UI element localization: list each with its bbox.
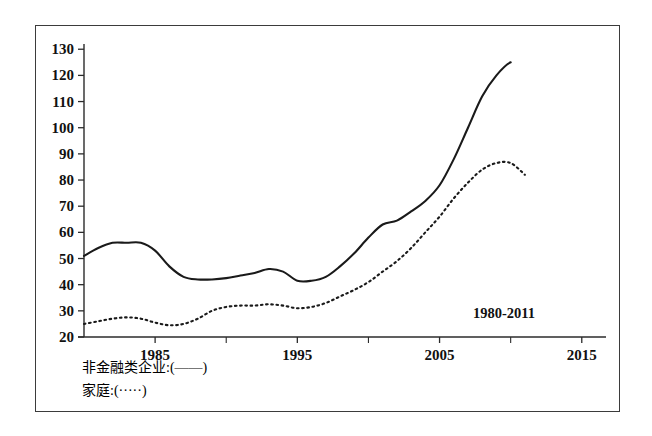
chart-frame: 2030405060708090100110120130 19851995200… [35, 25, 620, 412]
y-tick-label: 100 [52, 120, 75, 136]
x-tick-label: 2005 [425, 347, 455, 363]
y-axis-tick-labels: 2030405060708090100110120130 [52, 41, 75, 345]
axis-lines [78, 44, 606, 337]
legend-item-households: 家庭:(·····) [82, 379, 207, 399]
y-tick-label: 80 [59, 172, 74, 188]
y-tick-label: 130 [52, 41, 75, 57]
y-tick-label: 20 [59, 329, 74, 345]
series-line-nonfinancial-corporations [84, 62, 511, 281]
x-tick-label: 2015 [567, 347, 597, 363]
y-tick-label: 50 [59, 251, 74, 267]
legend-marker-dotted-icon: ····· [119, 383, 142, 398]
y-tick-label: 40 [59, 277, 74, 293]
y-tick-label: 120 [52, 67, 75, 83]
y-tick-label: 110 [52, 94, 74, 110]
legend-paren-close-1: ) [142, 383, 147, 398]
legend-label-households: 家庭 [82, 383, 110, 398]
y-tick-label: 90 [59, 146, 74, 162]
y-tick-label: 60 [59, 224, 74, 240]
x-axis-tick-labels: 1985199520052015 [140, 347, 597, 363]
legend-marker-solid-icon: —— [175, 360, 203, 375]
legend-item-nonfinancial-corporations: 非金融类企业:(——) [82, 356, 207, 376]
period-annotation: 1980-2011 [473, 305, 535, 321]
line-chart-svg: 2030405060708090100110120130 19851995200… [36, 26, 621, 413]
plot-area: 2030405060708090100110120130 19851995200… [36, 26, 621, 413]
y-tick-label: 70 [59, 198, 74, 214]
chart-legend: 非金融类企业:(——) 家庭:(·····) [82, 356, 207, 399]
legend-paren-close-0: ) [203, 360, 208, 375]
y-axis-ticks [78, 49, 84, 337]
x-tick-label: 1995 [282, 347, 312, 363]
series-line-households [84, 162, 525, 325]
x-axis-ticks [155, 337, 582, 343]
legend-label-nonfinancial-corporations: 非金融类企业 [82, 360, 166, 375]
y-tick-label: 30 [59, 303, 74, 319]
